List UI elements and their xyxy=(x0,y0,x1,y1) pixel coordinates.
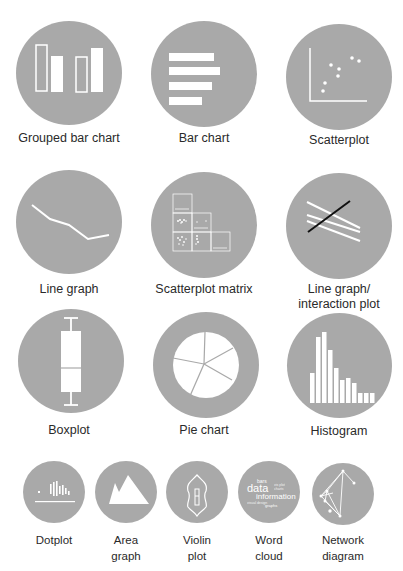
network-diagram-label: Network diagram xyxy=(322,532,364,564)
boxplot-label: Boxplot xyxy=(48,423,90,438)
histogram-label: Histogram xyxy=(311,424,368,439)
line-graph-label: Line graph xyxy=(39,282,98,297)
bar-chart-label: Bar chart xyxy=(179,131,230,146)
scatterplot-matrix-icon xyxy=(151,172,257,278)
grouped-bar-chart-icon xyxy=(16,21,122,125)
histogram-icon xyxy=(287,313,392,418)
word-cloud-label: Word cloud xyxy=(255,532,283,564)
dotplot-icon xyxy=(23,461,85,523)
interaction-plot-icon xyxy=(286,173,392,279)
area-graph-icon xyxy=(95,461,157,523)
svg-text:information: information xyxy=(256,492,296,501)
grouped-bar-chart-label: Grouped bar chart xyxy=(18,131,119,146)
violin-plot-label: Violin plot xyxy=(183,532,211,564)
violin-plot-icon xyxy=(166,461,228,523)
interaction-plot-label: Line graph/ interaction plot xyxy=(298,282,379,312)
svg-text:charts: charts xyxy=(274,487,284,491)
bar-chart-icon xyxy=(151,21,257,127)
line-graph-icon xyxy=(16,170,122,274)
svg-text:graphs: graphs xyxy=(265,503,277,508)
network-diagram-icon xyxy=(312,463,374,525)
word-cloud-icon: bars data vis plot charts information vi… xyxy=(238,461,300,523)
boxplot-icon xyxy=(18,309,124,413)
scatterplot-icon xyxy=(286,24,392,130)
scatterplot-label: Scatterplot xyxy=(309,133,369,148)
pie-chart-label: Pie chart xyxy=(179,423,228,438)
pie-chart-icon xyxy=(153,312,259,418)
scatterplot-matrix-label: Scatterplot matrix xyxy=(155,282,252,297)
dotplot-label: Dotplot xyxy=(36,532,72,548)
area-graph-label: Area graph xyxy=(111,532,140,564)
